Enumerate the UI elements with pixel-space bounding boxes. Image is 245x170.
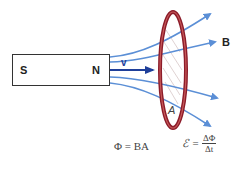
emf-denominator: Δt	[202, 144, 216, 154]
field-line	[110, 77, 217, 98]
loop-area-hatch	[163, 30, 182, 104]
flux-formula: Φ = BA	[114, 140, 149, 152]
velocity-label: v	[121, 57, 127, 68]
emf-fraction: ΔΦ Δt	[202, 133, 216, 154]
emf-numerator: ΔΦ	[202, 133, 216, 144]
emf-lhs: ℰ =	[182, 137, 199, 149]
field-label: B	[222, 36, 230, 48]
area-label: A	[168, 104, 175, 116]
south-pole-label: S	[20, 64, 27, 76]
north-pole-label: N	[92, 64, 100, 76]
emf-formula: ℰ = ΔΦ Δt	[182, 133, 216, 154]
